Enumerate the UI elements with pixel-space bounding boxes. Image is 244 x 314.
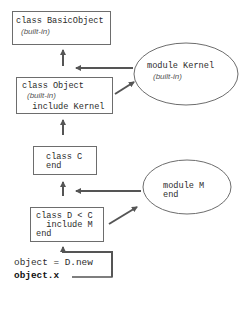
kernel-builtin-note: (built-in) bbox=[153, 72, 182, 82]
kernel-ellipse bbox=[134, 43, 238, 105]
module-m-end: end bbox=[163, 190, 178, 200]
class-basicobject-box: class BasicObject (built-in) bbox=[12, 11, 111, 45]
class-d-box: class D < C include M end bbox=[30, 207, 104, 242]
class-d-end: end bbox=[36, 229, 51, 239]
basicobject-builtin-note: (built-in) bbox=[21, 27, 50, 37]
object-include-kernel: include Kernel bbox=[22, 102, 105, 112]
arrow-d-include-m bbox=[109, 207, 137, 224]
class-basicobject-label: class BasicObject bbox=[16, 16, 104, 26]
object-builtin-note: (built-in) bbox=[27, 91, 56, 101]
module-kernel-label: module Kernel bbox=[147, 61, 214, 71]
arrow-call-path bbox=[72, 270, 112, 277]
class-object-box: class Object (built-in) include Kernel bbox=[16, 77, 113, 114]
class-c-box: class C end bbox=[33, 146, 97, 175]
figure-caption-truncated bbox=[12, 305, 232, 314]
arrow-object-include-kernel bbox=[115, 82, 134, 94]
code-object-x-call: object.x bbox=[14, 271, 59, 281]
arrow-call-to-d bbox=[72, 270, 112, 277]
class-object-label: class Object bbox=[22, 81, 84, 91]
method-lookup-diagram: class BasicObject (built-in) module Kern… bbox=[0, 0, 244, 314]
code-object-new: object = D.new bbox=[14, 258, 93, 268]
class-c-end: end bbox=[46, 161, 61, 171]
